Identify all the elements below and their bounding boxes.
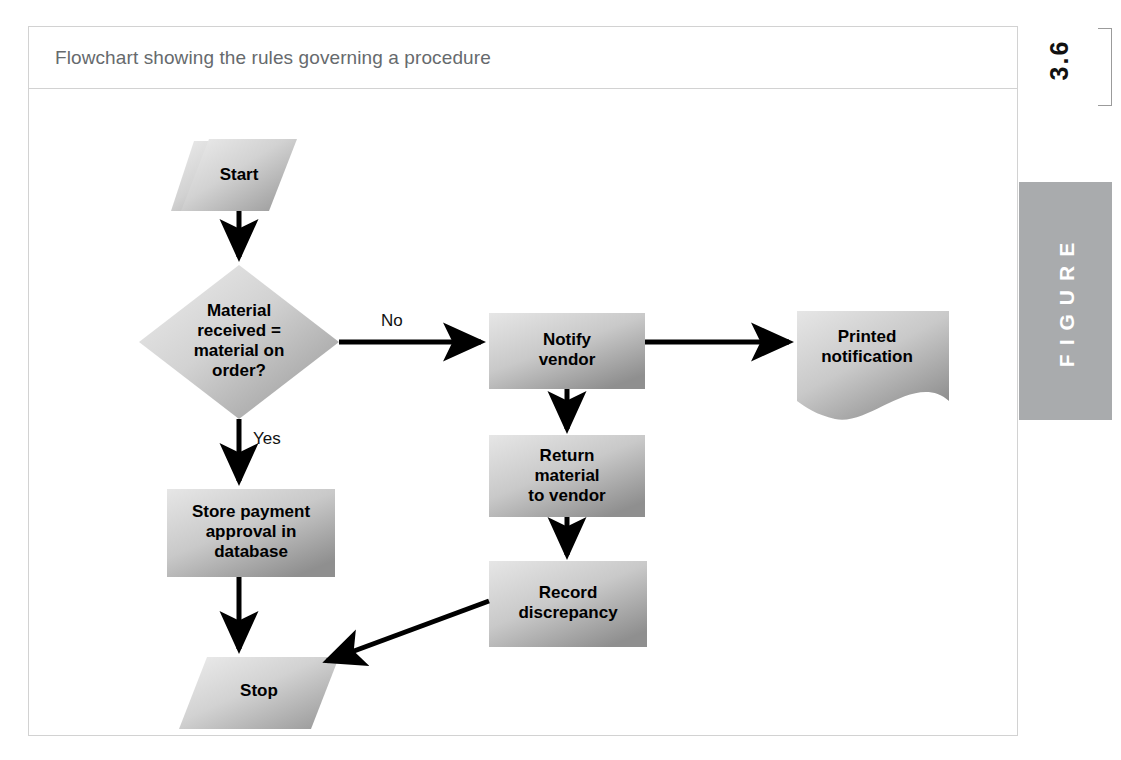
node-store-payment-approval[interactable]: [167, 489, 335, 577]
figure-number-bracket: [1098, 28, 1112, 106]
node-start[interactable]: [171, 139, 297, 211]
figure-number-group: 3.6: [1036, 14, 1082, 106]
flowchart-canvas: Start Material received = material on or…: [29, 89, 1017, 735]
node-printed-notification[interactable]: [797, 311, 949, 420]
node-notify-vendor[interactable]: [489, 313, 645, 389]
figure-number-text: 3.6: [1036, 14, 1082, 106]
figure-caption-text: Flowchart showing the rules governing a …: [29, 47, 491, 69]
figure-caption-bar: Flowchart showing the rules governing a …: [29, 27, 1017, 89]
node-stop[interactable]: [179, 657, 339, 729]
node-return-material[interactable]: [489, 435, 645, 517]
figure-frame: Flowchart showing the rules governing a …: [28, 26, 1018, 736]
edge-record-to-stop: [327, 601, 489, 661]
flowchart-graphic: [29, 89, 1017, 735]
figure-tab-label: FIGURE: [1020, 182, 1113, 420]
node-decision[interactable]: [139, 265, 339, 419]
node-record-discrepancy[interactable]: [489, 561, 647, 647]
figure-tab: FIGURE: [1019, 182, 1112, 420]
